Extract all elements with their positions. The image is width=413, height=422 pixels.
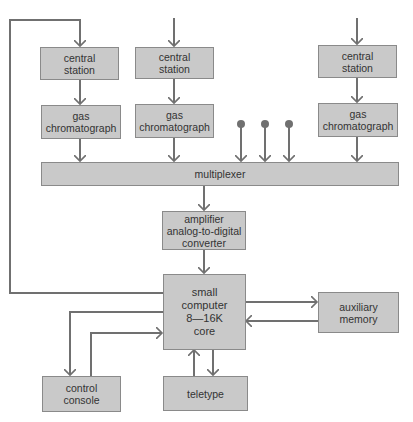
small-computer: small computer 8—16K core [163,274,246,350]
input-dot-2 [261,120,269,128]
amplifier-adc: amplifier analog-to-digital converter [162,211,246,250]
gas-chromatograph-1: gas chromatograph [41,105,121,139]
input-dot-1 [237,120,245,128]
gas-chromatograph-3: gas chromatograph [318,103,398,137]
control-console: control console [42,376,121,412]
central-station-3: central station [318,45,397,78]
central-station-2: central station [135,47,214,79]
teletype: teletype [163,376,248,411]
input-dot-3 [285,120,293,128]
gas-chromatograph-2: gas chromatograph [135,104,214,138]
multiplexer: multiplexer [41,162,399,186]
central-station-1: central station [40,47,119,80]
auxiliary-memory: auxiliary memory [318,292,399,333]
